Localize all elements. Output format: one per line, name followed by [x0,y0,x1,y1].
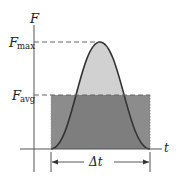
favg-subscript: avg [20,94,36,104]
delta-t-label: Δt [88,155,103,169]
x-axis-label: t [164,141,169,155]
arrowhead-left-icon [52,160,58,165]
force-time-diagram: F t F max F avg Δt [0,0,179,179]
arrowhead-right-icon [143,160,149,165]
y-axis-label: F [29,11,40,26]
fmax-subscript: max [17,41,35,51]
